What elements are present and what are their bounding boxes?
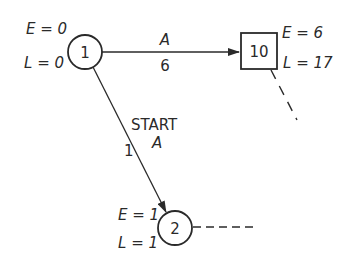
edge-1-2-start-label: START [131,116,178,134]
edge-1-to-10: A 6 [102,31,239,75]
edge-1-10-activity: A [159,31,170,49]
node-2: 2 E = 1 L = 1 [118,206,258,252]
network-diagram: 1 E = 0 L = 0 A 6 10 E = 6 L = 17 START … [0,0,344,265]
node-10-early-time: E = 6 [282,24,323,42]
node-10-label: 10 [249,43,268,61]
node-10: 10 E = 6 L = 17 [241,24,333,120]
node-2-late-time: L = 1 [118,234,158,252]
dashed-continuation-from-10 [271,70,297,120]
edge-1-to-2: START A 1 [93,67,178,212]
node-1-label: 1 [80,44,90,62]
node-1-late-time: L = 0 [24,54,64,72]
edge-1-10-duration: 6 [160,57,170,75]
edge-1-2-activity: A [151,134,162,152]
edge-1-2-duration: 1 [124,142,134,160]
node-1: 1 E = 0 L = 0 [24,20,102,72]
node-2-label: 2 [170,220,180,238]
node-2-early-time: E = 1 [118,206,159,224]
node-10-late-time: L = 17 [283,54,333,72]
node-1-early-time: E = 0 [26,20,67,38]
